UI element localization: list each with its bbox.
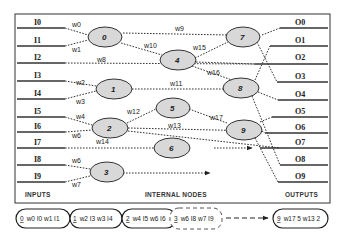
svg-text:0: 0 <box>102 33 107 42</box>
gene-9: 9w17 5 w13 2 <box>273 209 328 228</box>
node-3: 3 <box>90 162 124 182</box>
node-0: 0 <box>88 27 122 47</box>
weight-w6-b: w6 <box>71 157 81 164</box>
output-label-o3: O3 <box>295 72 305 81</box>
input-label-i5: I5 <box>34 107 41 116</box>
input-label-i6: I6 <box>34 122 41 131</box>
weight-w10: w10 <box>143 42 157 49</box>
svg-text:3w6 I8 w7 I9: 3w6 I8 w7 I9 <box>174 215 214 222</box>
svg-text:5: 5 <box>170 104 175 113</box>
svg-text:9w17 5 w13 2: 9w17 5 w13 2 <box>277 215 321 222</box>
weight-w3: w3 <box>75 98 85 105</box>
input-label-i8: I8 <box>34 155 41 164</box>
weight-w15: w15 <box>192 44 206 51</box>
weight-w13: w13 <box>167 122 181 129</box>
output-label-o4: O4 <box>295 90 305 99</box>
svg-text:1w2 I3 w3 I4: 1w2 I3 w3 I4 <box>73 215 113 222</box>
output-lines <box>255 28 328 182</box>
weight-w9: w9 <box>174 25 184 32</box>
weight-w17: w17 <box>209 114 223 121</box>
weight-labels: w0 w1 w2 w3 w4 w6 w6 w7 w8 w9 w10 w11 w1… <box>71 21 223 188</box>
internal-nodes-section-label: INTERNAL NODES <box>145 191 207 198</box>
svg-text:4: 4 <box>174 56 180 65</box>
outputs-section-label: OUTPUTS <box>285 191 319 198</box>
output-label-o9: O9 <box>295 172 305 181</box>
output-label-o0: O0 <box>295 18 305 27</box>
node-8: 8 <box>223 78 259 98</box>
weight-w1: w1 <box>71 46 81 53</box>
gene-2: 2w4 I5 w6 I6 <box>122 209 176 228</box>
output-label-o7: O7 <box>295 138 305 147</box>
node-9: 9 <box>226 120 262 140</box>
weight-w4: w4 <box>75 113 85 120</box>
weight-w8: w8 <box>96 56 106 63</box>
input-label-i1: I1 <box>34 36 41 45</box>
weight-w11: w11 <box>169 80 182 87</box>
node-5: 5 <box>156 98 190 118</box>
output-label-o2: O2 <box>295 53 305 62</box>
node-2: 2 <box>92 118 128 138</box>
node-6: 6 <box>154 138 190 158</box>
svg-text:2: 2 <box>106 124 112 133</box>
inputs-section-label: INPUTS <box>25 191 51 198</box>
weight-w14: w14 <box>95 138 109 145</box>
input-label-i9: I9 <box>34 172 41 181</box>
output-label-o8: O8 <box>295 155 305 164</box>
output-label-o6: O6 <box>295 123 305 132</box>
svg-text:1: 1 <box>111 85 116 94</box>
weight-w0: w0 <box>71 21 81 28</box>
gene-3-dashed: 3w6 I8 w7 I9 <box>170 208 222 229</box>
input-label-i3: I3 <box>34 71 41 80</box>
node-1: 1 <box>96 79 132 99</box>
weight-w2: w2 <box>75 79 85 86</box>
internal-nodes: 0 1 2 3 4 5 6 7 <box>88 27 262 182</box>
weight-w6-a: w6 <box>71 132 81 139</box>
gene-0: 0w0 I0 w1 I1 <box>16 209 70 228</box>
svg-text:2w4 I5 w6 I6: 2w4 I5 w6 I6 <box>126 215 166 222</box>
svg-text:3: 3 <box>104 168 109 177</box>
svg-text:7: 7 <box>240 33 245 42</box>
input-label-i2: I2 <box>34 53 41 62</box>
node-4: 4 <box>160 50 196 70</box>
input-label-i7: I7 <box>34 138 41 147</box>
genome-row: 0w0 I0 w1 I1 1w2 I3 w3 I4 2w4 I5 w6 I6 3… <box>16 208 328 229</box>
node-7: 7 <box>226 27 260 47</box>
weight-w7: w7 <box>71 181 81 188</box>
gene-1: 1w2 I3 w3 I4 <box>70 209 122 228</box>
svg-text:0w0 I0 w1 I1: 0w0 I0 w1 I1 <box>20 215 60 222</box>
output-label-o5: O5 <box>295 107 305 116</box>
input-label-i4: I4 <box>34 89 41 98</box>
weight-w12: w12 <box>126 108 140 115</box>
neural-network-diagram: I0 I1 I2 I3 I4 I5 I6 I7 I8 I9 O0 O1 O2 O… <box>0 0 342 243</box>
svg-text:6: 6 <box>169 144 174 153</box>
svg-text:9: 9 <box>241 126 246 135</box>
weight-w16: w16 <box>206 69 220 76</box>
output-label-o1: O1 <box>295 36 305 45</box>
input-label-i0: I0 <box>34 18 41 27</box>
svg-text:8: 8 <box>238 84 243 93</box>
